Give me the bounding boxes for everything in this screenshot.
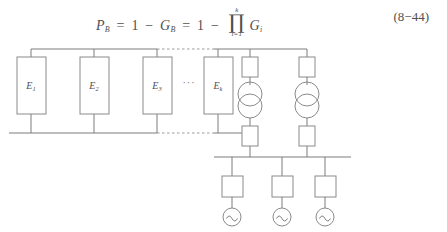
- product-operator: k ∏ i=1: [229, 6, 245, 38]
- equation-row: PB = 1 − GB = 1 − k ∏ i=1 Gi (8−44): [0, 0, 447, 36]
- equation-number: (8−44): [394, 9, 430, 25]
- element-block-e1[interactable]: E1: [17, 49, 46, 133]
- equation-minus-1: −: [142, 18, 156, 33]
- ellipsis-label: ···: [183, 77, 196, 88]
- element-block-ek[interactable]: Ek: [204, 49, 233, 133]
- equation-equals-2: =: [179, 18, 193, 33]
- equation-one-1: 1: [131, 18, 138, 33]
- generator-branch-2[interactable]: [272, 157, 293, 226]
- xfmr2-lower-breaker[interactable]: [299, 126, 315, 146]
- product-pi-icon: ∏: [229, 14, 245, 30]
- transformer-branch-2[interactable]: [295, 49, 319, 157]
- element-block-e2[interactable]: E2: [80, 49, 109, 133]
- gen2-breaker[interactable]: [272, 176, 293, 197]
- equation-term-gi: Gi: [250, 18, 263, 33]
- xfmr1-upper-breaker[interactable]: [242, 57, 258, 77]
- equation-term-gb: GB: [160, 18, 175, 33]
- gen1-ac-source-icon[interactable]: [223, 208, 241, 226]
- equation-formula: PB = 1 − GB = 1 − k ∏ i=1 Gi: [96, 5, 262, 37]
- gen2-ac-source-icon[interactable]: [273, 208, 291, 226]
- transformer-branch-1[interactable]: [238, 49, 262, 157]
- circuit-diagram: E1 E2 E3 ··· Ek: [0, 36, 447, 232]
- gen3-ac-source-icon[interactable]: [316, 208, 334, 226]
- element-block-e3[interactable]: E3: [143, 49, 172, 133]
- equation-term-pb: PB: [96, 18, 110, 33]
- equation-minus-2: −: [208, 18, 222, 33]
- generator-branch-1[interactable]: [222, 157, 243, 226]
- gen3-breaker[interactable]: [315, 176, 336, 197]
- equation-equals-1: =: [114, 18, 128, 33]
- gen1-breaker[interactable]: [222, 176, 243, 197]
- equation-one-2: 1: [197, 18, 204, 33]
- generator-branch-3[interactable]: [315, 157, 336, 226]
- xfmr2-upper-breaker[interactable]: [299, 57, 315, 77]
- xfmr1-lower-breaker[interactable]: [242, 126, 258, 146]
